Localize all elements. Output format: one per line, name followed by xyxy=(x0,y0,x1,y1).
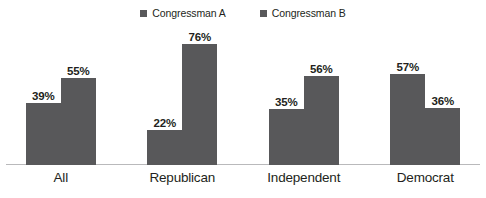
bar-group-independent: 35% 56% xyxy=(243,26,365,165)
bar-group-democrat: 57% 36% xyxy=(365,26,486,165)
bar-slot-b: 55% xyxy=(61,26,96,165)
bar-value-label: 76% xyxy=(189,31,211,43)
category-label-all: All xyxy=(0,168,122,194)
plot-area: 39% 55% 22% 76% xyxy=(0,26,486,165)
bar-slot-a: 35% xyxy=(269,26,304,165)
bar-value-label: 57% xyxy=(397,61,419,73)
bar-congressman-a[interactable] xyxy=(26,103,61,165)
chart-legend: Congressman A Congressman B xyxy=(0,8,486,19)
bar-congressman-b[interactable] xyxy=(304,76,339,165)
legend-label: Congressman B xyxy=(272,8,346,19)
bar-slot-a: 39% xyxy=(26,26,61,165)
bar-pair: 39% 55% xyxy=(26,26,96,165)
bar-congressman-b[interactable] xyxy=(425,108,460,165)
bar-slot-a: 22% xyxy=(147,26,182,165)
bar-congressman-a[interactable] xyxy=(269,109,304,165)
bar-pair: 57% 36% xyxy=(390,26,460,165)
bar-congressman-b[interactable] xyxy=(61,78,96,165)
category-label-democrat: Democrat xyxy=(365,168,486,194)
bar-slot-b: 56% xyxy=(304,26,339,165)
legend-item-congressman-b[interactable]: Congressman B xyxy=(260,8,346,19)
bar-group-all: 39% 55% xyxy=(0,26,122,165)
bar-value-label: 55% xyxy=(67,65,89,77)
bar-groups: 39% 55% 22% 76% xyxy=(0,26,486,165)
bar-slot-b: 76% xyxy=(182,26,217,165)
bar-chart: · Congressman A Congressman B 39% 55% xyxy=(0,0,486,198)
bar-congressman-b[interactable] xyxy=(182,44,217,165)
bar-pair: 35% 56% xyxy=(269,26,339,165)
category-label-independent: Independent xyxy=(243,168,365,194)
legend-swatch-icon xyxy=(140,10,147,17)
bar-value-label: 39% xyxy=(32,90,54,102)
category-axis-labels: All Republican Independent Democrat xyxy=(0,168,486,194)
bar-value-label: 36% xyxy=(432,95,454,107)
bar-pair: 22% 76% xyxy=(147,26,217,165)
bar-value-label: 35% xyxy=(275,96,297,108)
bar-slot-b: 36% xyxy=(425,26,460,165)
category-label-republican: Republican xyxy=(122,168,244,194)
bar-congressman-a[interactable] xyxy=(147,130,182,165)
bar-slot-a: 57% xyxy=(390,26,425,165)
legend-item-congressman-a[interactable]: Congressman A xyxy=(140,8,225,19)
bar-value-label: 56% xyxy=(310,63,332,75)
bar-group-republican: 22% 76% xyxy=(122,26,244,165)
bar-value-label: 22% xyxy=(154,117,176,129)
legend-label: Congressman A xyxy=(152,8,225,19)
clipped-chart-title: · xyxy=(0,0,486,2)
bar-congressman-a[interactable] xyxy=(390,74,425,165)
legend-swatch-icon xyxy=(260,10,267,17)
